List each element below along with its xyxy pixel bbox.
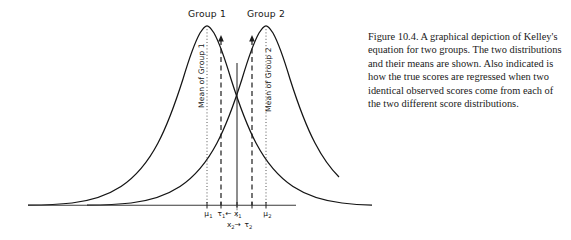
tau2-subscript: 2 (249, 224, 252, 230)
figure-page: Group 1 Group 2 Mean of Group 1 Mean of … (0, 0, 571, 240)
mu1-subscript: 1 (209, 213, 212, 219)
axis-label-tau2: τ 2 (245, 220, 253, 230)
x1-subscript: 1 (238, 213, 241, 219)
axis-label-tau1: τ 1 (218, 209, 226, 219)
group2-distribution-curve (87, 26, 339, 205)
mean-of-group1-label: Mean of Group 1 (197, 43, 206, 108)
arrow-left-icon: ← (225, 209, 231, 218)
group1-heading: Group 1 (188, 8, 226, 19)
axis-label-mu2: μ 2 (263, 209, 271, 219)
arrow-right-icon: → (235, 220, 241, 229)
true-score-arrowhead-group2 (249, 35, 255, 42)
true-score-arrowhead-group1 (218, 35, 224, 42)
mean-of-group2-label: Mean of Group 2 (264, 47, 273, 112)
axis-label-mu1: μ 1 (204, 209, 212, 219)
figure-caption: Figure 10.4. A graphical depiction of Ke… (368, 30, 564, 110)
axis-label-x1: x 1 (234, 209, 242, 219)
axis-label-x2: x 2 (227, 220, 235, 230)
mu2-subscript: 2 (268, 213, 271, 219)
group2-heading: Group 2 (247, 8, 285, 19)
